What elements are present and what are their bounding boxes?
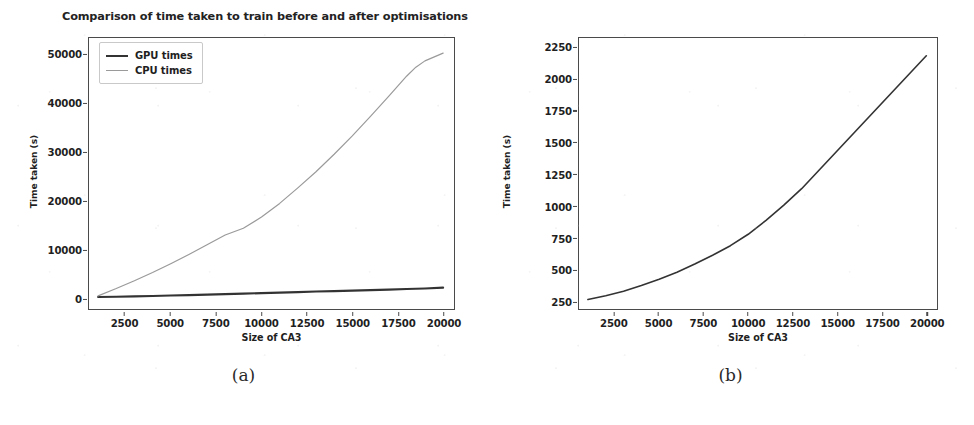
x-tick-mark: [703, 312, 704, 316]
x-tick-mark: [658, 312, 659, 316]
legend-swatch-gpu-icon: [106, 55, 128, 57]
y-tick-label: 30000: [48, 147, 82, 158]
y-tick-label: 1000: [544, 201, 572, 212]
y-axis-label-b: Time taken (s): [501, 102, 512, 242]
legend-swatch-cpu-icon: [106, 70, 128, 71]
y-axis-ticks-a: 01000020000300004000050000: [38, 37, 82, 310]
series-line-gpu-times: [588, 56, 926, 300]
legend-label-cpu: CPU times: [135, 65, 192, 76]
x-tick-label: 7500: [202, 318, 230, 329]
y-axis-ticks-b: 250500750100012501500175020002250: [528, 37, 572, 310]
plot-area-b: [578, 37, 938, 310]
y-tick-label: 2250: [544, 42, 572, 53]
y-tick-mark: [573, 238, 577, 239]
y-tick-mark: [573, 270, 577, 271]
x-tick-mark: [307, 312, 308, 316]
y-tick-label: 250: [551, 297, 572, 308]
legend-item-cpu: CPU times: [106, 63, 193, 78]
y-tick-label: 1500: [544, 137, 572, 148]
y-tick-label: 1250: [544, 169, 572, 180]
plot-lines-b: [579, 38, 937, 309]
y-tick-label: 500: [551, 265, 572, 276]
x-tick-label: 5000: [645, 318, 673, 329]
x-tick-mark: [837, 312, 838, 316]
legend-item-gpu: GPU times: [106, 48, 193, 63]
y-tick-mark: [573, 174, 577, 175]
y-tick-label: 750: [551, 233, 572, 244]
y-tick-mark: [573, 302, 577, 303]
x-tick-mark: [748, 312, 749, 316]
y-tick-mark: [573, 110, 577, 111]
caption-b: (b): [487, 365, 974, 385]
x-tick-label: 12500: [776, 318, 810, 329]
figure-container: Comparison of time taken to train before…: [0, 0, 974, 425]
y-tick-label: 50000: [48, 49, 82, 60]
y-axis-label-a: Time taken (s): [28, 102, 39, 242]
x-tick-mark: [398, 312, 399, 316]
x-tick-label: 20000: [427, 318, 461, 329]
y-tick-label: 40000: [48, 98, 82, 109]
x-tick-mark: [792, 312, 793, 316]
y-tick-mark: [83, 152, 87, 153]
y-tick-mark: [83, 299, 87, 300]
x-tick-label: 17500: [865, 318, 899, 329]
x-axis-ticks-a: 2500500075001000012500150001750020000: [88, 312, 455, 334]
y-tick-mark: [83, 201, 87, 202]
x-tick-mark: [882, 312, 883, 316]
x-tick-mark: [613, 312, 614, 316]
x-tick-mark: [927, 312, 928, 316]
legend-a: GPU times CPU times: [99, 42, 203, 84]
x-tick-label: 15000: [336, 318, 370, 329]
x-tick-mark: [215, 312, 216, 316]
x-axis-label-b: Size of CA3: [578, 332, 938, 343]
y-tick-label: 2000: [544, 74, 572, 85]
subfigure-a: Comparison of time taken to train before…: [0, 0, 487, 425]
y-tick-mark: [83, 103, 87, 104]
y-tick-mark: [573, 79, 577, 80]
x-tick-label: 17500: [381, 318, 415, 329]
chart-title-a: Comparison of time taken to train before…: [62, 10, 462, 23]
x-tick-label: 2500: [111, 318, 139, 329]
x-tick-label: 10000: [244, 318, 278, 329]
x-tick-label: 15000: [820, 318, 854, 329]
y-tick-mark: [573, 142, 577, 143]
x-axis-label-a: Size of CA3: [88, 332, 455, 343]
x-tick-label: 5000: [156, 318, 184, 329]
series-line-cpu-times: [98, 53, 443, 296]
x-tick-mark: [261, 312, 262, 316]
x-tick-mark: [124, 312, 125, 316]
series-line-gpu-times: [98, 288, 443, 297]
y-tick-label: 1750: [544, 105, 572, 116]
y-tick-mark: [573, 206, 577, 207]
y-tick-mark: [83, 54, 87, 55]
y-tick-label: 0: [75, 294, 82, 305]
x-tick-mark: [352, 312, 353, 316]
y-tick-mark: [83, 250, 87, 251]
x-axis-ticks-b: 2500500075001000012500150001750020000: [578, 312, 938, 334]
caption-a: (a): [0, 365, 487, 385]
y-tick-mark: [573, 47, 577, 48]
x-tick-label: 10000: [731, 318, 765, 329]
legend-label-gpu: GPU times: [135, 50, 193, 61]
y-tick-label: 10000: [48, 245, 82, 256]
x-tick-mark: [170, 312, 171, 316]
x-tick-label: 12500: [290, 318, 324, 329]
x-tick-label: 2500: [600, 318, 628, 329]
x-tick-label: 7500: [690, 318, 718, 329]
x-tick-label: 20000: [910, 318, 944, 329]
y-tick-label: 20000: [48, 196, 82, 207]
x-tick-mark: [443, 312, 444, 316]
